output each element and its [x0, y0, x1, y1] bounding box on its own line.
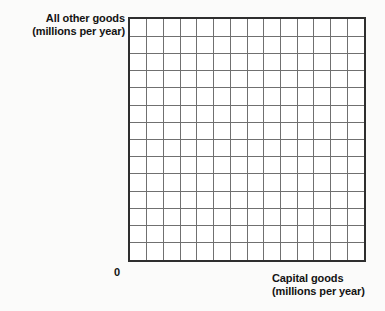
grid-lines-svg	[130, 19, 364, 260]
origin-zero-label: 0	[110, 266, 124, 278]
plot-grid-area[interactable]	[128, 17, 366, 262]
y-axis-label: All other goods (millions per year)	[0, 12, 125, 38]
y-axis-label-line2: (millions per year)	[0, 25, 125, 38]
y-axis-label-line1: All other goods	[0, 12, 125, 25]
production-possibilities-worksheet-figure: All other goods (millions per year)	[0, 0, 385, 311]
x-axis-label-line2: (millions per year)	[272, 285, 365, 298]
x-axis-label: Capital goods (millions per year)	[272, 272, 365, 298]
x-axis-label-line1: Capital goods	[272, 272, 365, 285]
